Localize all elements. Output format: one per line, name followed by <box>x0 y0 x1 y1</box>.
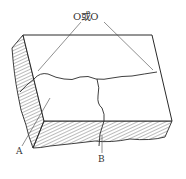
slab-crack-diagram <box>0 0 186 179</box>
top-face <box>23 35 172 121</box>
label-b: B <box>98 155 105 164</box>
label-a: A <box>16 147 23 156</box>
crack-type-label: O或O <box>73 12 98 22</box>
